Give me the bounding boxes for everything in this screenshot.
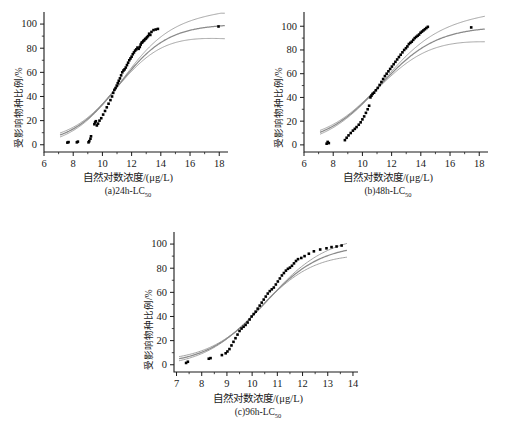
data-point (328, 142, 331, 145)
y-tick-label: 60 (27, 67, 38, 78)
y-tick-label: 80 (27, 43, 38, 54)
data-point (117, 79, 120, 82)
data-point (97, 122, 100, 125)
data-point (107, 102, 110, 105)
plot-area-24h: 020406080100681012141618 (0, 0, 250, 175)
data-point (368, 104, 371, 107)
data-point (250, 315, 253, 318)
data-point (104, 110, 107, 113)
data-point (355, 126, 358, 129)
data-markers (325, 26, 472, 145)
y-tick-label: 40 (287, 92, 298, 103)
data-point (221, 354, 224, 357)
data-point (366, 108, 369, 111)
data-point (470, 26, 473, 29)
y-tick-label: 20 (27, 115, 38, 126)
data-point (139, 46, 142, 49)
data-point (119, 77, 122, 80)
caption-subscript-24h: 50 (145, 191, 152, 198)
caption-subscript-48h: 50 (405, 191, 412, 198)
data-point (209, 357, 212, 360)
data-point (313, 250, 316, 253)
y-axis-label-48h: 受影响物种比例/% (271, 67, 285, 148)
x-axis-label-48h: 自然对数浓度/(μg/L) (288, 172, 488, 184)
x-tick-label: 10 (357, 158, 368, 169)
data-point (120, 74, 123, 77)
x-tick-label: 8 (331, 158, 336, 169)
data-point (384, 75, 387, 78)
x-tick-label: 14 (416, 158, 427, 169)
data-point (391, 65, 394, 68)
caption-text-24h: (a)24h-LC (105, 186, 145, 196)
data-point (281, 274, 284, 277)
data-point (297, 258, 300, 261)
x-tick-label: 12 (126, 158, 137, 169)
x-tick-label: 18 (214, 158, 225, 169)
data-point (308, 252, 311, 255)
y-tick-label: 60 (287, 68, 298, 79)
x-tick-label: 12 (386, 158, 397, 169)
confidence-band-lower (179, 257, 347, 361)
data-point (363, 115, 366, 118)
x-tick-label: 14 (348, 378, 359, 389)
x-tick-label: 12 (297, 378, 308, 389)
data-point (248, 318, 251, 321)
ssd-figure: 020406080100681012141618 自然对数浓度/(μg/L) (… (0, 0, 518, 431)
x-axis-label-24h: 自然对数浓度/(μg/L) (28, 172, 228, 184)
data-point (260, 301, 263, 304)
caption-text-48h: (b)48h-LC (364, 186, 405, 196)
data-point (382, 78, 385, 81)
x-tick-label: 10 (247, 378, 257, 389)
data-point (147, 35, 150, 38)
data-point (157, 28, 160, 31)
data-point (102, 113, 105, 116)
data-point (77, 140, 80, 143)
data-point (275, 283, 278, 286)
x-tick-label: 16 (185, 158, 196, 169)
x-tick-label: 8 (199, 378, 204, 389)
data-point (228, 348, 231, 351)
data-point (335, 245, 338, 248)
y-tick-label: 100 (281, 21, 297, 32)
data-point (264, 295, 267, 298)
data-point (112, 92, 115, 95)
x-tick-label: 14 (156, 158, 167, 169)
data-point (90, 135, 93, 138)
y-axis-label-96h: 受影响物种比例/% (141, 289, 155, 370)
data-point (325, 247, 328, 250)
confidence-band-lower (320, 42, 485, 134)
x-tick-label: 9 (224, 378, 229, 389)
data-point (373, 91, 376, 94)
data-point (230, 344, 233, 347)
data-point (394, 61, 397, 64)
x-axis-label-96h: 自然对数浓度/(μg/L) (158, 393, 358, 405)
x-tick-label: 8 (71, 158, 76, 169)
data-point (406, 45, 409, 48)
data-point (109, 99, 112, 102)
data-point (105, 106, 108, 109)
y-tick-label: 100 (21, 18, 37, 29)
data-point (95, 120, 98, 123)
data-point (396, 58, 399, 61)
data-point (262, 298, 265, 301)
data-point (130, 55, 133, 58)
y-tick-label: 40 (27, 91, 38, 102)
x-tick-label: 6 (41, 158, 46, 169)
y-tick-label: 0 (162, 359, 167, 370)
data-point (266, 292, 269, 295)
data-point (98, 119, 101, 122)
data-point (330, 246, 333, 249)
data-point (273, 286, 276, 289)
data-point (226, 350, 229, 353)
x-tick-label: 10 (97, 158, 108, 169)
y-tick-label: 20 (157, 335, 168, 346)
y-tick-label: 0 (32, 139, 37, 150)
data-point (375, 89, 378, 92)
x-tick-label: 6 (301, 158, 306, 169)
data-point (254, 310, 257, 313)
data-point (359, 121, 362, 124)
data-point (217, 25, 220, 28)
data-point (427, 26, 430, 29)
data-point (319, 248, 322, 251)
y-tick-label: 60 (157, 287, 168, 298)
